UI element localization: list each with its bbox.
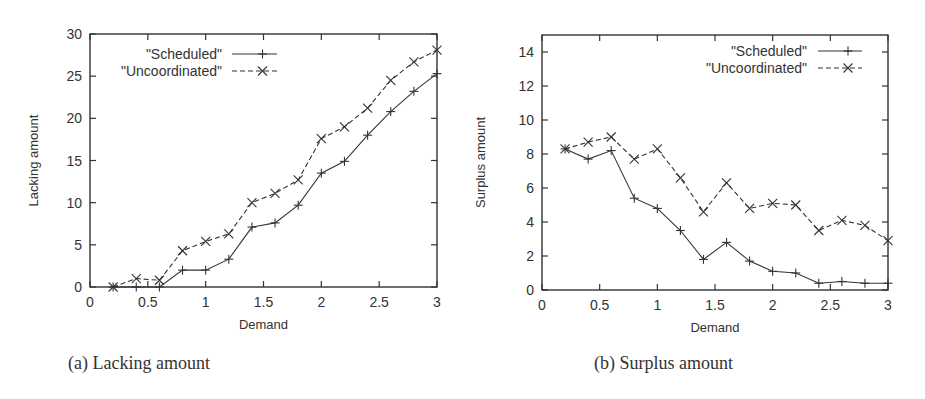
- y-tick-label: 4: [526, 214, 534, 230]
- x-tick-label: 0.5: [590, 297, 610, 313]
- x-tick-label: 2.5: [821, 297, 841, 313]
- y-tick-label: 10: [66, 195, 82, 211]
- y-tick-label: 14: [518, 44, 534, 60]
- x-tick-label: 1.5: [254, 294, 274, 310]
- legend-entry: "Scheduled": [146, 46, 277, 62]
- x-tick-label: 1: [202, 294, 210, 310]
- y-tick-label: 5: [74, 237, 82, 253]
- y-tick-label: 10: [518, 112, 534, 128]
- x-tick-label: 0.5: [138, 294, 158, 310]
- series-scheduled: [109, 69, 442, 291]
- legend-entry: "Uncoordinated": [121, 63, 277, 79]
- x-tick-label: 2: [317, 294, 325, 310]
- x-tick-label: 2: [769, 297, 777, 313]
- lacking-amount-chart: 00.511.522.53051015202530DemandLacking a…: [0, 0, 462, 399]
- series-scheduled: [561, 144, 893, 287]
- caption-surplus: (b) Surplus amount: [594, 353, 733, 374]
- x-tick-label: 3: [884, 297, 892, 313]
- x-axis-label: Demand: [239, 317, 288, 332]
- chart-panel-surplus: 00.511.522.5302468101214DemandSurplus am…: [462, 0, 925, 399]
- y-tick-label: 0: [526, 282, 534, 298]
- y-tick-label: 25: [66, 68, 82, 84]
- x-axis-label: Demand: [690, 320, 739, 335]
- y-tick-label: 30: [66, 26, 82, 42]
- x-tick-label: 1: [653, 297, 661, 313]
- x-tick-label: 1.5: [705, 297, 725, 313]
- surplus-amount-chart: 00.511.522.5302468101214DemandSurplus am…: [462, 0, 925, 399]
- svg-text:"Scheduled": "Scheduled": [731, 43, 807, 59]
- svg-text:"Uncoordinated": "Uncoordinated": [121, 63, 222, 79]
- x-tick-label: 0: [86, 294, 94, 310]
- y-axis-label: Lacking amount: [26, 114, 41, 206]
- y-tick-label: 20: [66, 110, 82, 126]
- legend-entry: "Scheduled": [731, 43, 862, 59]
- y-tick-label: 2: [526, 248, 534, 264]
- legend-entry: "Uncoordinated": [706, 60, 862, 76]
- svg-text:"Scheduled": "Scheduled": [146, 46, 222, 62]
- series-uncoordinated: [109, 46, 442, 292]
- y-axis-label: Surplus amount: [473, 117, 488, 208]
- y-tick-label: 12: [518, 78, 534, 94]
- chart-panel-lacking: 00.511.522.53051015202530DemandLacking a…: [0, 0, 462, 399]
- x-tick-label: 0: [538, 297, 546, 313]
- y-tick-label: 8: [526, 146, 534, 162]
- caption-lacking: (a) Lacking amount: [68, 353, 210, 374]
- y-tick-label: 15: [66, 153, 82, 169]
- series-uncoordinated: [561, 133, 893, 246]
- svg-text:"Uncoordinated": "Uncoordinated": [706, 60, 807, 76]
- y-tick-label: 6: [526, 180, 534, 196]
- x-tick-label: 2.5: [369, 294, 389, 310]
- y-tick-label: 0: [74, 279, 82, 295]
- x-tick-label: 3: [433, 294, 441, 310]
